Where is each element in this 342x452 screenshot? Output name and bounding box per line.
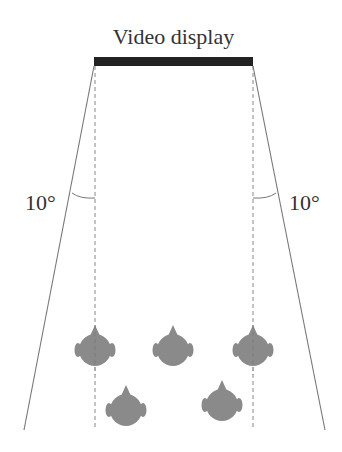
left-boundary-line xyxy=(24,66,94,430)
right-angle-arc xyxy=(253,193,276,198)
video-display-label: Video display xyxy=(0,24,342,50)
viewer-head-icon xyxy=(106,385,147,426)
left-angle-arc xyxy=(72,193,95,198)
viewer-head-icon xyxy=(233,325,274,366)
viewer-head-icon xyxy=(153,325,194,366)
viewing-angle-diagram: Video display 10° 10° xyxy=(0,0,342,452)
viewer-head-icon xyxy=(202,380,243,421)
viewer-head-icon xyxy=(75,325,116,366)
right-boundary-line xyxy=(253,66,325,430)
left-angle-label: 10° xyxy=(25,190,56,216)
video-display-bar xyxy=(94,57,253,66)
right-angle-label: 10° xyxy=(289,190,320,216)
diagram-graphics xyxy=(0,0,342,452)
